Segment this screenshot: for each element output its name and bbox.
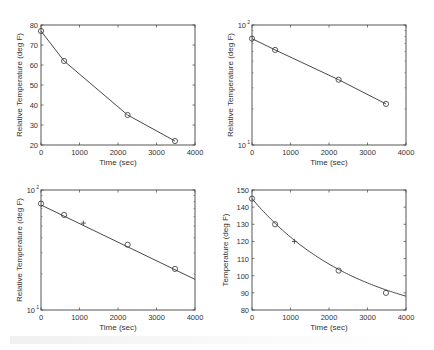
x-tick-label: 0 — [250, 148, 254, 157]
axes-box — [252, 190, 406, 310]
y-axis-label: Relative Temperature (deg F) — [15, 33, 24, 137]
series-line — [41, 205, 195, 279]
x-tick-label: 1000 — [282, 148, 299, 157]
x-tick-label: 1000 — [282, 313, 299, 322]
x-tick-label: 3000 — [359, 148, 376, 157]
chart-bottom-right: 010002000300040008090100110120130140150T… — [221, 186, 414, 332]
x-tick-label: 2000 — [321, 313, 338, 322]
x-tick-label: 0 — [39, 313, 43, 322]
y-tick-label: 80 — [241, 306, 249, 315]
chart-top-right: 01000200030004000101102Time (sec)Relativ… — [226, 19, 414, 167]
y-tick-label: 20 — [30, 141, 38, 150]
y-tick-label: 140 — [236, 203, 249, 212]
chart-top-left: 0100020003000400020304050607080Time (sec… — [15, 21, 203, 167]
y-tick-label: 90 — [241, 289, 249, 298]
y-tick-label: 150 — [236, 186, 249, 195]
y-tick-label: 80 — [30, 21, 38, 30]
x-tick-label: 2000 — [110, 148, 127, 157]
y-tick-label: 60 — [30, 61, 38, 70]
x-tick-label: 3000 — [148, 313, 165, 322]
y-tick-label: 10 — [238, 21, 246, 30]
x-axis-label: Time (sec) — [310, 158, 348, 167]
x-tick-label: 4000 — [187, 313, 204, 322]
series-line — [41, 31, 175, 141]
y-tick-label: 10 — [27, 306, 35, 315]
y-tick-label: 30 — [30, 121, 38, 130]
x-tick-label: 3000 — [359, 313, 376, 322]
y-tick-label: 10 — [27, 186, 35, 195]
axes-box — [41, 190, 195, 310]
x-tick-label: 0 — [250, 313, 254, 322]
y-tick-exponent: 1 — [247, 139, 250, 145]
x-axis-label: Time (sec) — [99, 158, 137, 167]
y-axis-label: Relative Temperature (deg F) — [226, 33, 235, 137]
figure-caption-faded — [10, 336, 424, 344]
x-tick-label: 3000 — [148, 148, 165, 157]
x-tick-label: 4000 — [398, 148, 415, 157]
y-tick-label: 120 — [236, 237, 249, 246]
data-point-marker — [273, 222, 278, 227]
x-tick-label: 1000 — [71, 313, 88, 322]
y-tick-exponent: 2 — [247, 19, 250, 25]
series-line — [252, 199, 406, 297]
series-line — [252, 39, 386, 104]
y-tick-label: 10 — [238, 141, 246, 150]
axes-box — [252, 25, 406, 145]
x-tick-label: 4000 — [398, 313, 415, 322]
x-tick-label: 1000 — [71, 148, 88, 157]
plus-marker — [292, 239, 297, 244]
y-tick-label: 110 — [237, 255, 249, 264]
y-tick-label: 70 — [30, 41, 38, 50]
x-axis-label: Time (sec) — [99, 323, 137, 332]
y-tick-exponent: 1 — [36, 304, 39, 310]
x-tick-label: 2000 — [110, 313, 127, 322]
y-tick-label: 100 — [236, 272, 249, 281]
x-axis-label: Time (sec) — [310, 323, 348, 332]
x-tick-label: 4000 — [187, 148, 204, 157]
x-tick-label: 2000 — [321, 148, 338, 157]
y-tick-label: 50 — [30, 81, 38, 90]
y-tick-exponent: 2 — [36, 184, 39, 190]
y-tick-label: 130 — [236, 220, 249, 229]
y-tick-label: 40 — [30, 101, 38, 110]
data-point-marker — [383, 290, 388, 295]
y-axis-label: Temperature (deg F) — [221, 213, 230, 286]
y-axis-label: Relative Temperature (deg F) — [15, 198, 24, 302]
axes-box — [41, 25, 195, 145]
x-tick-label: 0 — [39, 148, 43, 157]
figure-canvas: 0100020003000400020304050607080Time (sec… — [0, 0, 434, 350]
chart-bottom-left: 01000200030004000101102Time (sec)Relativ… — [15, 184, 203, 332]
